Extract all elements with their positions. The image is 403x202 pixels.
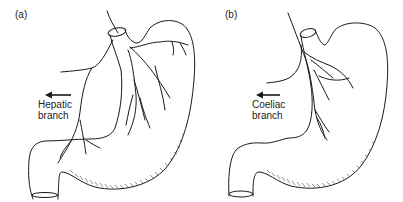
vagal-trunk (107, 11, 118, 33)
hatching-shading-a (70, 134, 184, 188)
stomach-diagram-b (201, 0, 402, 202)
coeliac-nerve (267, 45, 302, 83)
branch-label-line1: Hepatic (38, 99, 72, 110)
hepatic-nerve (61, 40, 113, 72)
panel-b-coeliac-branch: (b) Coeliac branch (201, 0, 402, 202)
panel-label-b: (b) (225, 9, 237, 20)
pylorus-opening (32, 193, 58, 198)
branch-label-line1: Coeliac (252, 99, 285, 110)
hatching-shading-b (267, 142, 374, 187)
coeliac-branch-label: Coeliac branch (252, 99, 285, 121)
arrow-left-icon (45, 91, 72, 99)
hepatic-branch-label: Hepatic branch (38, 99, 72, 121)
arrow-left-icon (256, 91, 281, 99)
branch-label-line2: branch (38, 110, 72, 121)
panel-label-a: (a) (15, 9, 27, 20)
stomach-diagram-a (0, 0, 201, 202)
esophagus-opening (299, 27, 317, 39)
pylorus-opening (229, 191, 253, 197)
stomach-greater-curvature (58, 21, 195, 196)
panel-a-hepatic-branch: (a) Hepatic branch (0, 0, 201, 202)
branch-label-line2: branch (252, 110, 285, 121)
